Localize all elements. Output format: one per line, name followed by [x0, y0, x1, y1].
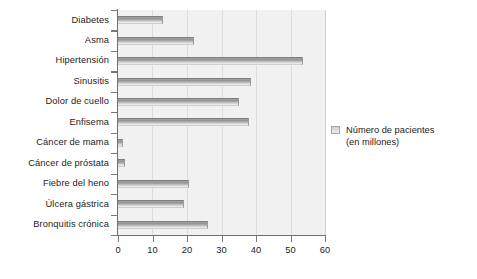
- y-axis-tick-mark: [111, 51, 117, 52]
- y-axis-tick-label-text: Cáncer de próstata: [28, 159, 109, 168]
- bar: [118, 98, 239, 106]
- bar-row: [118, 30, 325, 50]
- y-axis-tick-label: Hipertensión: [0, 51, 114, 71]
- y-axis-tick-label: Úlcera gástrica: [0, 194, 114, 214]
- y-axis-tick-label-text: Dolor de cuello: [45, 97, 109, 106]
- x-axis-tick-label: 10: [147, 245, 157, 255]
- y-axis-tick-mark: [111, 235, 117, 236]
- y-axis-tick-label-text: Cáncer de mama: [36, 138, 109, 147]
- bar: [118, 118, 249, 126]
- y-axis-tick-label-text: Bronquitis crónica: [33, 220, 109, 229]
- bar: [118, 57, 303, 65]
- bar-row: [118, 194, 325, 214]
- bar: [118, 16, 163, 24]
- bar: [118, 221, 208, 229]
- y-axis-tick-mark: [111, 215, 117, 216]
- x-axis-tick-mark: [153, 236, 154, 242]
- y-axis-tick-mark: [111, 10, 117, 11]
- y-axis-tick-label: Asma: [0, 30, 114, 50]
- y-axis-tick-mark: [111, 112, 117, 113]
- x-axis-tick-mark: [325, 236, 326, 242]
- y-axis-tick-label-text: Sinusitis: [73, 77, 109, 86]
- y-axis-line: [117, 9, 118, 236]
- y-axis-tick-mark: [111, 174, 117, 175]
- y-axis-tick-mark: [111, 30, 117, 31]
- x-axis-tick-label: 20: [182, 245, 192, 255]
- x-axis-tick-label: 0: [115, 245, 120, 255]
- x-axis-tick-mark: [222, 236, 223, 242]
- y-axis-tick-label: Bronquitis crónica: [0, 215, 114, 235]
- bar-row: [118, 10, 325, 30]
- bar: [118, 200, 184, 208]
- x-axis-tick-label: 30: [216, 245, 226, 255]
- y-axis-tick-mark: [111, 153, 117, 154]
- y-axis-tick-label: Cáncer de mama: [0, 133, 114, 153]
- y-axis-tick-mark: [111, 194, 117, 195]
- y-axis-tick-mark: [111, 92, 117, 93]
- y-axis-tick-label: Diabetes: [0, 10, 114, 30]
- x-axis-tick-label: 50: [285, 245, 295, 255]
- x-axis-tick-mark: [256, 236, 257, 242]
- plot-area: [118, 10, 325, 235]
- horizontal-bar-chart: DiabetesAsmaHipertensiónSinusitisDolor d…: [0, 0, 477, 279]
- x-axis-tick-label: 60: [320, 245, 330, 255]
- bar: [118, 37, 194, 45]
- chart-legend: Número de pacientes (en millones): [331, 124, 434, 148]
- bar-row: [118, 92, 325, 112]
- y-axis-tick-label: Enfisema: [0, 112, 114, 132]
- bar: [118, 159, 125, 167]
- y-axis-tick-label: Cáncer de próstata: [0, 153, 114, 173]
- bar-series: [118, 10, 325, 235]
- bar-row: [118, 174, 325, 194]
- y-axis-tick-label: Dolor de cuello: [0, 92, 114, 112]
- y-axis-tick-label-text: Fiebre del heno: [43, 179, 109, 188]
- y-axis-tick-label: Sinusitis: [0, 71, 114, 91]
- bar-row: [118, 153, 325, 173]
- y-axis-tick-label-text: Enfisema: [69, 118, 109, 127]
- bar-row: [118, 215, 325, 235]
- y-axis-tick-label-text: Diabetes: [72, 16, 110, 25]
- bar: [118, 139, 123, 147]
- gridline: [325, 10, 326, 235]
- bar: [118, 180, 189, 188]
- x-axis-tick-mark: [291, 236, 292, 242]
- bar-row: [118, 133, 325, 153]
- y-axis-tick-mark: [111, 71, 117, 72]
- y-axis-tick-label: Fiebre del heno: [0, 174, 114, 194]
- y-axis-category-labels: DiabetesAsmaHipertensiónSinusitisDolor d…: [0, 10, 114, 235]
- bar-row: [118, 71, 325, 91]
- bar-row: [118, 112, 325, 132]
- y-axis-tick-mark: [111, 133, 117, 134]
- y-axis-tick-label-text: Úlcera gástrica: [45, 200, 109, 209]
- x-axis-tick-mark: [118, 236, 119, 242]
- x-axis-tick-mark: [187, 236, 188, 242]
- legend-swatch-icon: [331, 126, 340, 134]
- bar: [118, 78, 251, 86]
- y-axis-tick-label-text: Asma: [85, 36, 109, 45]
- bar-row: [118, 51, 325, 71]
- y-axis-tick-label-text: Hipertensión: [56, 56, 109, 65]
- x-axis-tick-label: 40: [251, 245, 261, 255]
- legend-label: Número de pacientes (en millones): [346, 124, 434, 148]
